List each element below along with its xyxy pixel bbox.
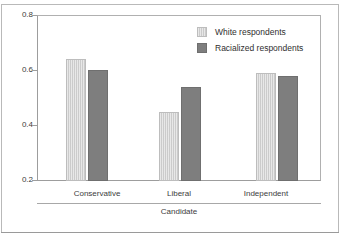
figure-border-left [1,4,2,233]
y-axis-tick-label-0.6: 0.6 [7,66,33,74]
bar-independent-white [256,73,276,181]
chart-legend: White respondents Racialized respondents [197,24,303,56]
x-axis-group-rule [37,203,321,204]
figure-border-right [338,4,339,233]
bar-liberal-white [159,112,179,181]
legend-item-white-respondents: White respondents [197,24,303,40]
legend-label-white-respondents: White respondents [215,27,286,37]
y-axis-tick-label-0.2: 0.2 [7,176,33,184]
x-axis-group-label: Candidate [37,207,321,217]
legend-label-racialized-respondents: Racialized respondents [215,43,303,53]
y-axis-tick-label-0.8: 0.8 [7,11,33,19]
x-axis-label-independent: Independent [212,189,320,198]
figure-border-top [1,4,339,5]
bar-conservative-racialized [88,70,108,181]
chart-figure: 0.8 0.6 0.4 0.2 Conservative Liberal Ind… [0,0,342,237]
legend-swatch-dark-gray-icon [197,43,207,53]
y-axis-tick-label-0.4: 0.4 [7,121,33,129]
figure-border-bottom [1,232,339,233]
legend-item-racialized-respondents: Racialized respondents [197,40,303,56]
bar-independent-racialized [278,76,298,181]
legend-swatch-light-gray-icon [197,27,207,37]
bar-liberal-racialized [181,87,201,181]
bar-conservative-white [66,59,86,181]
